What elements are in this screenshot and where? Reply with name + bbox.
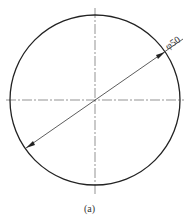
arrowhead-lower-icon xyxy=(26,141,35,148)
arrowhead-upper-icon xyxy=(156,52,165,59)
dimension-label: φ50 xyxy=(163,34,182,52)
figure-caption: (a) xyxy=(84,203,95,214)
drawing-canvas: φ50 xyxy=(0,0,187,222)
